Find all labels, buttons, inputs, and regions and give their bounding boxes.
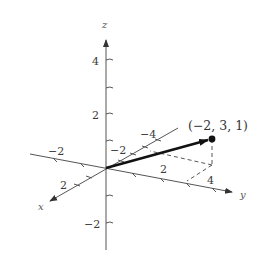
y-tick-2: 2 — [160, 163, 167, 176]
point-label: (−2, 3, 1) — [188, 118, 248, 133]
z-tick-4: 4 — [92, 55, 99, 68]
y-tick-neg2: −2 — [48, 145, 64, 158]
z-tick-2: 2 — [92, 109, 99, 122]
z-axis-label: z — [101, 19, 108, 30]
point-marker — [209, 136, 216, 143]
x-axis-label: x — [38, 201, 44, 212]
coordinate-diagram: z 4 2 −2 y −2 2 4 x 2 −2 −4 (−2, 3, 1) — [0, 0, 272, 263]
y-axis-label: y — [239, 189, 246, 200]
x-tick-neg4: −4 — [140, 128, 156, 141]
x-tick-neg2: −2 — [110, 144, 126, 157]
z-tick-neg2: −2 — [84, 218, 100, 231]
y-tick-4: 4 — [207, 174, 214, 187]
x-tick-2: 2 — [60, 179, 67, 192]
